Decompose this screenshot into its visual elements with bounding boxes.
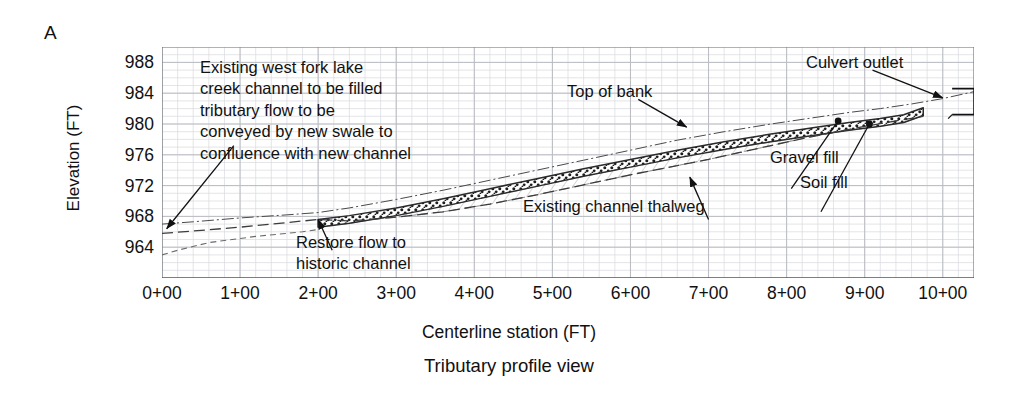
x-tick-label: 5+00 [533,283,572,304]
x-tick-label: 9+00 [845,283,884,304]
annotation-soil-fill: Soil fill [800,172,848,193]
tributary-profile-figure: A Elevation (FT) 964968972976980984988 0… [0,0,1018,402]
x-tick-label: 10+00 [918,283,967,304]
annotation-gravel-fill: Gravel fill [770,147,839,168]
annotation-existing-channel: Existing west fork lake creek channel to… [200,57,500,164]
x-tick-label: 2+00 [298,283,337,304]
annotation-existing-channel-thalweg: Existing channel thalweg [523,196,705,217]
annotation-top-of-bank: Top of bank [567,81,652,102]
x-tick-label: 3+00 [377,283,416,304]
x-tick-label: 7+00 [689,283,728,304]
annotation-restore-flow: Restore flow to historic channel [296,232,506,275]
x-tick-label: 8+00 [767,283,806,304]
x-tick-label: 4+00 [455,283,494,304]
figure-caption: Tributary profile view [0,355,1018,377]
x-tick-label: 1+00 [220,283,259,304]
x-axis-title: Centerline station (FT) [0,322,1018,343]
x-tick-label: 6+00 [611,283,650,304]
annotation-culvert-outlet: Culvert outlet [806,52,903,73]
x-tick-label: 0+00 [142,283,181,304]
